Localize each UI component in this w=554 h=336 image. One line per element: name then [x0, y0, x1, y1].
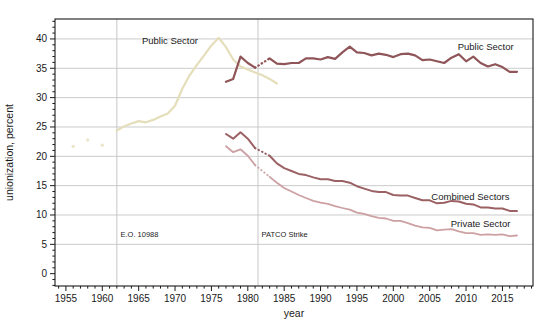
- private-sector-line-0: [226, 146, 255, 165]
- public-sector-old-label: Public Sector: [142, 35, 198, 46]
- combined-sectors-label: Combined Sectors: [431, 191, 509, 202]
- eo-10988-label: E.O. 10988: [120, 230, 158, 239]
- x-tick-label-1970: 1970: [164, 293, 187, 304]
- y-tick-label-40: 40: [36, 33, 48, 44]
- x-tick-label-2000: 2000: [382, 293, 405, 304]
- x-tick-label-1995: 1995: [346, 293, 369, 304]
- public-sector-early-points-point-2: [101, 144, 104, 147]
- x-axis-label: year: [284, 307, 305, 319]
- public-sector-gap-dotted: [255, 58, 270, 67]
- public-sector-early-points-point-0: [72, 145, 75, 148]
- private-sector-label: Private Sector: [451, 218, 511, 229]
- x-tick-label-1965: 1965: [128, 293, 151, 304]
- y-tick-label-20: 20: [36, 151, 48, 162]
- x-tick-label-1955: 1955: [55, 293, 78, 304]
- x-tick-label-2015: 2015: [491, 293, 514, 304]
- combined-sectors-line-0: [226, 132, 255, 148]
- public-sector-old-line-0: [117, 38, 277, 131]
- y-tick-label-5: 5: [41, 239, 47, 250]
- y-tick-label-0: 0: [41, 268, 47, 279]
- combined-sectors-line-1: [270, 156, 517, 211]
- public-sector-label: Public Sector: [458, 41, 514, 52]
- y-tick-label-25: 25: [36, 121, 48, 132]
- x-tick-label-1985: 1985: [273, 293, 296, 304]
- y-tick-label-30: 30: [36, 92, 48, 103]
- x-tick-label-1980: 1980: [237, 293, 260, 304]
- private-sector-gap-dotted: [255, 165, 270, 177]
- y-tick-label-15: 15: [36, 180, 48, 191]
- y-tick-label-10: 10: [36, 209, 48, 220]
- x-tick-label-2005: 2005: [419, 293, 442, 304]
- patco-strike-label: PATCO Strike: [262, 230, 308, 239]
- unionization-chart-figure: E.O. 10988PATCO StrikePublic SectorPubli…: [0, 0, 554, 336]
- x-tick-label-1975: 1975: [200, 293, 223, 304]
- x-tick-label-1990: 1990: [309, 293, 332, 304]
- plot-frame: [55, 19, 533, 286]
- y-tick-label-35: 35: [36, 63, 48, 74]
- x-tick-label-2010: 2010: [455, 293, 478, 304]
- combined-sectors-gap-dotted: [255, 148, 270, 156]
- y-axis-label: unionization, percent: [3, 104, 15, 201]
- unionization-chart: E.O. 10988PATCO StrikePublic SectorPubli…: [0, 0, 554, 336]
- public-sector-early-points-point-1: [86, 138, 89, 141]
- public-sector-line-0: [226, 57, 255, 82]
- x-tick-label-1960: 1960: [91, 293, 114, 304]
